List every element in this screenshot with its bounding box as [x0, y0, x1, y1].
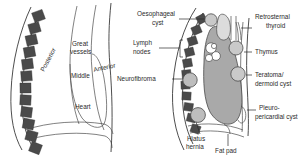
label-neurofibroma: Neurofibroma	[117, 75, 156, 82]
vertebra	[21, 58, 33, 69]
left-panel-compartments: Posterior Great vessels Middle Anterior …	[11, 3, 117, 155]
vertebra	[28, 22, 41, 35]
label-fat-pad: Fat pad	[215, 147, 237, 155]
vertebra	[187, 36, 198, 46]
label-anterior: Anterior	[93, 61, 117, 73]
label-lymph-nodes-line2: nodes	[133, 48, 150, 55]
label-oesophageal-cyst-line1: Oesophageal	[137, 10, 175, 18]
label-middle: Middle	[71, 72, 90, 79]
hiatus-hernia-mass	[191, 108, 206, 123]
vertebra	[20, 106, 32, 117]
label-great-vessels-line1: Great	[72, 40, 88, 47]
label-pleuropericardial-cyst-line1: Pleuro-	[259, 104, 280, 111]
vertebra	[25, 34, 38, 46]
vertebra	[21, 71, 33, 82]
trachea	[231, 16, 236, 40]
label-posterior: Posterior	[39, 46, 58, 73]
neurofibroma-mass	[183, 73, 197, 87]
label-pleuropericardial-cyst-line2: pericardial cyst	[255, 113, 298, 121]
vertebra	[20, 95, 32, 106]
label-lymph-nodes-line1: Lymph	[133, 39, 152, 47]
label-great-vessels-line2: vessels	[70, 48, 91, 55]
right-panel-masses	[172, 8, 249, 150]
vertebra	[22, 118, 35, 130]
oesophageal-cyst-mass	[205, 14, 217, 26]
label-hiatus-hernia-line1: Hiatus	[187, 135, 205, 142]
vertebra	[20, 83, 31, 93]
label-teratoma-line2: dermoid cyst	[255, 80, 291, 88]
diagram-canvas: Posterior Great vessels Middle Anterior …	[0, 0, 301, 162]
label-heart: Heart	[75, 103, 91, 110]
label-thymus: Thymus	[255, 48, 278, 56]
left-diaphragm	[25, 122, 113, 134]
vertebra	[32, 9, 46, 22]
hilar-node	[205, 54, 212, 61]
right-chest-outline-anterior	[247, 18, 249, 136]
thymus-mass	[229, 41, 243, 55]
teratoma-dermoid-cyst-mass	[231, 67, 245, 81]
vertebra	[184, 47, 195, 57]
aortic-arch	[217, 14, 231, 40]
left-vertebral-column	[20, 9, 46, 154]
hilar-node	[211, 43, 216, 48]
label-oesophageal-cyst-line2: cyst	[152, 19, 164, 27]
hilar-node	[212, 52, 221, 61]
label-retrosternal-thyroid-line1: Retrosternal	[255, 13, 290, 20]
vertebra	[23, 46, 36, 58]
vertebra	[25, 130, 38, 143]
label-retrosternal-thyroid-line2: thyroid	[266, 22, 286, 30]
vertebra	[182, 58, 192, 67]
label-hiatus-hernia-line2: hernia	[186, 143, 204, 150]
vertebra	[182, 92, 191, 100]
label-teratoma-line1: Teratoma/	[255, 71, 284, 78]
